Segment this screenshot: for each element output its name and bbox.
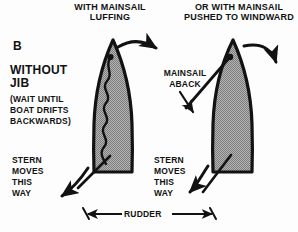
boat-left-hull (94, 40, 133, 172)
mainsail-aback-callout: MAINSAIL ABACK (152, 68, 218, 90)
stern-moves-callout-left: STERN MOVES THIS WAY (12, 155, 44, 199)
stern-moves-callout-right: STERN MOVES THIS WAY (154, 155, 186, 199)
panel-letter: B (13, 40, 22, 53)
boat-left (62, 40, 156, 196)
boat-left-bow-arrow-icon (118, 41, 156, 48)
boat-right-hull (213, 40, 253, 172)
boat-right (186, 40, 276, 192)
title-left: WITH MAINSAIL LUFFING (64, 3, 156, 22)
figure-panel-b: WITH MAINSAIL LUFFING OR WITH MAINSAIL P… (0, 0, 298, 232)
rudder-label: RUDDER (124, 210, 162, 219)
wait-until-note: (WAIT UNTIL BOAT DRIFTS BACKWARDS) (10, 94, 71, 128)
boat-right-bow-arrow-icon (244, 45, 276, 62)
without-jib-heading: WITHOUT JIB (10, 64, 67, 90)
title-right: OR WITH MAINSAIL PUSHED TO WINDWARD (182, 3, 296, 22)
